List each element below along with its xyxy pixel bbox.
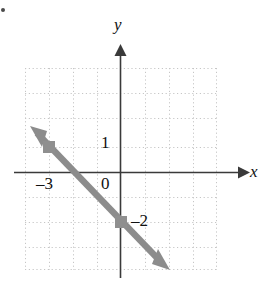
tick-label-y-neg2: –2 <box>131 212 148 229</box>
y-axis-arrow-icon <box>115 44 127 56</box>
tick-label-y-1: 1 <box>101 134 110 151</box>
x-axis-arrow-icon <box>238 167 250 179</box>
tick-label-x-neg3: –3 <box>36 175 53 192</box>
tick-label-origin-0: 0 <box>101 175 110 192</box>
y-axis <box>115 44 127 278</box>
x-axis-label: x <box>250 163 258 180</box>
coordinate-plane <box>0 0 271 296</box>
y-axis-label: y <box>114 16 122 33</box>
point-marker-0-neg2 <box>115 216 127 228</box>
point-marker-neg3-1 <box>43 141 55 153</box>
graph-figure: y x 1 0 –3 –2 <box>0 0 271 296</box>
